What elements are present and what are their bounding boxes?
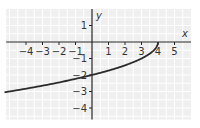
x-tick-label: 2 — [122, 46, 128, 57]
y-tick-label: −4 — [72, 103, 87, 114]
x-tick-label: −2 — [52, 46, 67, 57]
x-tick-label: −3 — [35, 46, 50, 57]
y-tick-label: −3 — [72, 86, 87, 97]
chart: −4−3−2−1123451−1−2−3−4xy — [0, 0, 200, 128]
x-tick-label: 1 — [105, 46, 111, 57]
x-tick-label: −4 — [19, 46, 34, 57]
y-tick-label: −1 — [72, 53, 87, 64]
x-tick-label: 3 — [138, 46, 144, 57]
plot-area: −4−3−2−1123451−1−2−3−4xy — [0, 0, 200, 128]
y-tick-label: 1 — [81, 20, 87, 31]
x-tick-label: 5 — [171, 46, 177, 57]
x-axis-label: x — [181, 28, 188, 39]
y-axis-label: y — [95, 10, 103, 21]
